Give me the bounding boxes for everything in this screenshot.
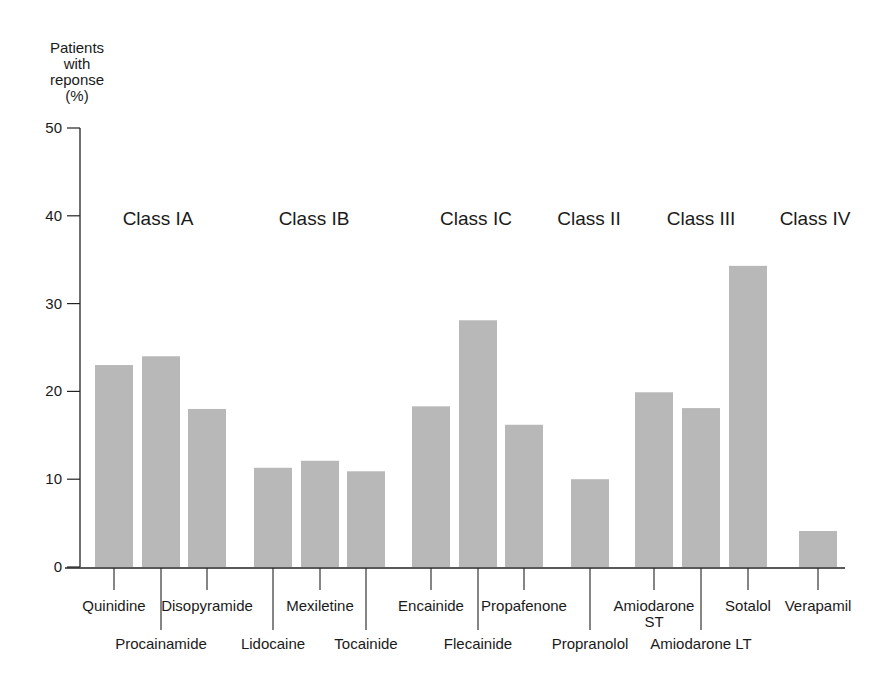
category-label: Sotalol [725, 597, 771, 614]
category-label: ST [644, 613, 663, 630]
y-tick-label: 0 [54, 558, 62, 575]
bar [412, 406, 450, 567]
category-label: Amiodarone LT [650, 635, 751, 652]
bar [571, 479, 609, 567]
category-label: Lidocaine [241, 635, 305, 652]
bar [799, 531, 837, 567]
class-group-label: Class IB [279, 208, 350, 229]
class-group-label: Class II [557, 208, 620, 229]
bar [505, 425, 543, 567]
bar [188, 409, 226, 567]
category-label: Procainamide [115, 635, 207, 652]
category-label: Disopyramide [161, 597, 253, 614]
category-label: Verapamil [785, 597, 852, 614]
y-tick-label: 20 [45, 382, 62, 399]
bar [301, 461, 339, 567]
bar [459, 320, 497, 567]
bar-chart: 01020304050QuinidineProcainamideDisopyra… [0, 0, 884, 680]
bar [635, 392, 673, 567]
bar [254, 468, 292, 567]
category-label: Amiodarone [614, 597, 695, 614]
y-tick-label: 40 [45, 207, 62, 224]
bar [682, 408, 720, 567]
category-label: Tocainide [334, 635, 397, 652]
class-group-label: Class IV [780, 208, 851, 229]
category-label: Mexiletine [286, 597, 354, 614]
class-group-label: Class IC [440, 208, 512, 229]
bar [95, 365, 133, 567]
category-label: Propafenone [481, 597, 567, 614]
class-group-label: Class III [667, 208, 736, 229]
category-label: Propranolol [552, 635, 629, 652]
y-tick-label: 50 [45, 119, 62, 136]
y-tick-label: 10 [45, 470, 62, 487]
category-label: Quinidine [82, 597, 145, 614]
class-group-label: Class IA [123, 208, 194, 229]
category-label: Flecainide [444, 635, 512, 652]
y-tick-label: 30 [45, 295, 62, 312]
bar [142, 356, 180, 567]
bar [729, 266, 767, 567]
category-label: Encainide [398, 597, 464, 614]
bar [347, 471, 385, 567]
